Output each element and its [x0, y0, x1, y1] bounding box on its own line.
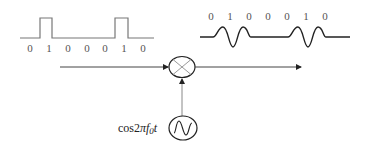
baseband-bit-2: 0	[65, 42, 71, 54]
baseband-bit-3: 0	[84, 42, 90, 54]
modulated-bit-labels: 0 1 0 0 0 1 0	[208, 10, 328, 22]
baseband-square-wave	[20, 18, 154, 38]
baseband-bit-0: 0	[27, 42, 33, 54]
modulated-bit-2: 0	[246, 10, 252, 22]
carrier-label: cos2πf0t	[118, 121, 158, 136]
multiply-circle-icon	[169, 57, 195, 78]
bpsk-modulation-diagram: 0 1 0 0 0 1 0 0 1 0 0 0 1 0 cos2πf0t	[0, 0, 369, 155]
baseband-bit-5: 1	[121, 42, 127, 54]
modulated-bit-5: 1	[303, 10, 309, 22]
modulated-bit-3: 0	[265, 10, 271, 22]
modulated-bit-6: 0	[322, 10, 328, 22]
modulated-bit-0: 0	[208, 10, 214, 22]
baseband-bit-6: 0	[140, 42, 146, 54]
modulated-bit-4: 0	[284, 10, 290, 22]
modulated-waveform	[200, 27, 350, 47]
modulated-bit-1: 1	[227, 10, 233, 22]
baseband-bit-labels: 0 1 0 0 0 1 0	[27, 42, 146, 54]
sine-oscillator-icon	[169, 116, 197, 140]
baseband-bit-4: 0	[102, 42, 108, 54]
baseband-bit-1: 1	[46, 42, 52, 54]
